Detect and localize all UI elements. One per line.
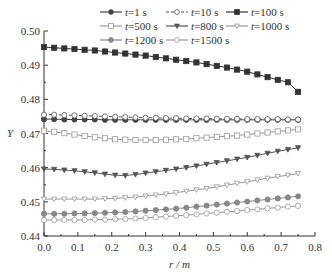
legend-label: t=800 s (191, 20, 224, 32)
legend-item: t=1000 s (226, 20, 289, 32)
x-tick-label: 0.3 (139, 241, 153, 253)
legend-label: t=500 s (125, 20, 158, 32)
legend-item: t=10 s (166, 6, 218, 18)
legend-item: t=1 s (100, 6, 147, 18)
y-tick-label: 0.47 (21, 128, 41, 140)
x-tick-label: 0.7 (274, 241, 288, 253)
y-tick-label: 0.46 (21, 162, 41, 174)
legend: t=1 st=10 st=100 st=500 st=800 st=1000 s… (100, 6, 289, 46)
series-t-500-s (41, 127, 300, 143)
legend-label: t=1 s (125, 6, 147, 18)
series-t-800-s (41, 146, 300, 178)
axes: 0.00.10.20.30.40.50.60.70.80.440.450.460… (7, 25, 322, 270)
x-tick-label: 0.2 (105, 241, 119, 253)
series-t-10-s (41, 112, 300, 122)
x-tick-label: 0.6 (240, 241, 254, 253)
y-tick-label: 0.48 (21, 93, 41, 105)
x-tick-label: 0.4 (173, 241, 187, 253)
x-tick-label: 0.1 (71, 241, 85, 253)
line-chart: 0.00.10.20.30.40.50.60.70.80.440.450.460… (0, 0, 332, 280)
y-tick-label: 0.50 (21, 25, 41, 37)
series-t-1500-s (41, 203, 300, 222)
legend-item: t=1200 s (100, 34, 163, 46)
legend-label: t=1200 s (125, 34, 163, 46)
x-tick-label: 0.8 (308, 241, 322, 253)
series-t-1000-s (41, 171, 300, 201)
legend-label: t=100 s (251, 6, 284, 18)
legend-item: t=800 s (166, 20, 224, 32)
legend-label: t=1500 s (191, 34, 229, 46)
legend-item: t=100 s (226, 6, 284, 18)
y-tick-label: 0.45 (21, 196, 41, 208)
legend-label: t=10 s (191, 6, 218, 18)
series-t-1200-s (41, 194, 300, 217)
x-tick-label: 0.0 (37, 241, 51, 253)
y-tick-label: 0.49 (21, 59, 41, 71)
legend-item: t=500 s (100, 20, 158, 32)
x-axis-label: r / m (169, 258, 190, 270)
x-tick-label: 0.5 (207, 241, 221, 253)
legend-label: t=1000 s (251, 20, 289, 32)
y-axis-label: Y (7, 127, 15, 139)
series-t-100-s (41, 44, 300, 94)
y-tick-label: 0.44 (21, 230, 41, 242)
legend-item: t=1500 s (166, 34, 229, 46)
